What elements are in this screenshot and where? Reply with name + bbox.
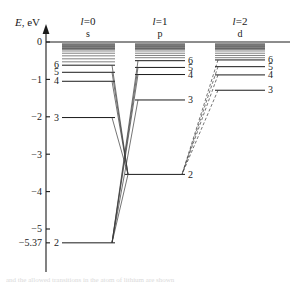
level-label-d-4: 4	[268, 69, 273, 80]
y-axis-tick-label: −5	[31, 223, 42, 234]
y-axis-tick-label: 0	[37, 36, 42, 47]
level-label-p-2: 2	[188, 169, 193, 180]
column-header-d: l=2	[233, 15, 248, 27]
figure-caption: and the allowed transitions in the atom …	[6, 276, 288, 284]
column-header-s: l=0	[81, 15, 96, 27]
column-term-d: d	[238, 28, 243, 39]
column-header-p: l=1	[153, 15, 168, 27]
energy-level-diagram-figure: E, eV0−1−2−3−4−5−5.37l=0s65432l=1p65432l…	[0, 0, 294, 285]
transition-s4-to-p2	[112, 81, 128, 174]
y-axis-tick-label: −1	[31, 74, 42, 85]
column-term-p: p	[158, 28, 163, 39]
level-label-p-3: 3	[188, 94, 193, 105]
transition-p3-to-s2	[112, 100, 138, 243]
level-label-s-2: 2	[54, 237, 59, 248]
y-axis-tick-label: −4	[31, 186, 42, 197]
level-label-s-4: 4	[54, 75, 59, 86]
level-label-d-3: 3	[268, 84, 273, 95]
y-axis-tick-label: −3	[31, 149, 42, 160]
transition-d5-to-p2	[182, 67, 218, 175]
y-axis-title: E, eV	[14, 16, 40, 28]
y-axis-tick-label: −5.37	[19, 237, 42, 248]
level-label-p-4: 4	[188, 69, 193, 80]
level-label-s-3: 3	[54, 112, 59, 123]
diagram-canvas: E, eV0−1−2−3−4−5−5.37l=0s65432l=1p65432l…	[0, 0, 294, 285]
transition-d4-to-p2	[182, 75, 218, 174]
column-term-s: s	[86, 28, 90, 39]
transition-p4-to-s2	[112, 75, 138, 243]
y-axis-tick-label: −2	[31, 111, 42, 122]
y-axis-arrow-icon	[43, 24, 50, 34]
